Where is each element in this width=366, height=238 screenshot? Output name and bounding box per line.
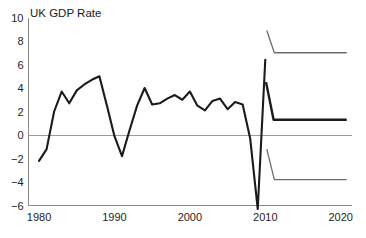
y-tick-label: 0 [17,129,23,141]
x-axis-tick-labels: 19801990200020102020 [27,211,353,223]
y-tick-label: 2 [17,106,23,118]
y-tick-label: 8 [17,35,23,47]
y-tick-label: 4 [17,82,23,94]
y-tick-label: −4 [11,176,24,188]
x-tick-label: 2020 [328,211,352,223]
uk-gdp-rate-line-chart: UK GDP Rate 1086420−2−4−6 19801990200020… [0,0,366,238]
forecast-lower-bound-line [267,149,347,180]
x-tick-label: 2000 [178,211,202,223]
x-tick-label: 2010 [253,211,277,223]
x-tick-label: 1990 [102,211,126,223]
chart-container: UK GDP Rate 1086420−2−4−6 19801990200020… [0,0,366,238]
y-tick-label: 6 [17,59,23,71]
y-tick-label: 10 [11,12,23,24]
y-tick-label: −2 [11,153,24,165]
forecast-central-projection-line [266,82,347,120]
x-tick-label: 1980 [27,211,51,223]
gdp-rate-series-line [39,60,265,209]
chart-title: UK GDP Rate [30,7,101,19]
y-axis-tick-labels: 1086420−2−4−6 [11,12,24,212]
forecast-upper-bound-line [267,30,347,52]
y-tick-label: −6 [11,200,24,212]
